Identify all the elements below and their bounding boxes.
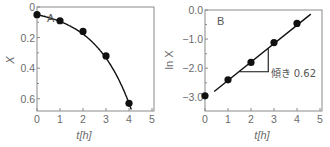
y-tick-label: −2.0 [182, 62, 203, 74]
x-tick-label: 2 [248, 113, 254, 125]
data-points-a [33, 11, 132, 107]
y-tick-label: 0.2 [20, 32, 35, 44]
panel-label-b: B [217, 15, 224, 27]
y-tick-label: 0.0 [188, 4, 203, 16]
x-axis-label-a: t[h] [76, 129, 92, 141]
x-tick-label: 5 [149, 113, 155, 125]
x-tick-label: 5 [317, 113, 323, 125]
y-axis-label-b: ln X [163, 50, 175, 70]
x-tick-label: 1 [225, 113, 231, 125]
y-tick-label: −3.0 [182, 91, 203, 103]
data-point [293, 20, 300, 27]
data-point [79, 28, 86, 35]
data-point [270, 39, 277, 46]
y-tick-label: 0 [29, 1, 35, 13]
data-point [33, 11, 40, 18]
panel-label-a: A [47, 12, 55, 24]
x-tick-label: 3 [103, 113, 109, 125]
y-tick-label: −1.0 [182, 33, 203, 45]
x-tick-label: 4 [294, 113, 300, 125]
data-points-b [201, 20, 300, 100]
data-point [125, 100, 132, 107]
data-point [102, 52, 109, 59]
plot-frame-a [37, 7, 154, 111]
chart-panel-a: 012345 00.20.40.6 A t[h] X [4, 1, 155, 141]
x-tick-label: 1 [57, 113, 63, 125]
data-point [247, 59, 254, 66]
x-tick-label: 0 [202, 113, 208, 125]
y-ticks-b: 0.0−1.0−2.0−3.0 [182, 4, 208, 103]
x-axis-label-b: t[h] [254, 129, 270, 141]
slope-annotation: 傾き 0.62 [271, 67, 316, 79]
chart-panel-b: 012345 0.0−1.0−2.0−3.0 B 傾き 0.62 t[h] ln… [163, 4, 323, 141]
x-tick-label: 2 [80, 113, 86, 125]
y-tick-label: 0.6 [20, 93, 35, 105]
figure: 012345 00.20.40.6 A t[h] X 012345 0.0−1.… [0, 0, 330, 147]
x-tick-label: 4 [126, 113, 132, 125]
x-tick-label: 0 [34, 113, 40, 125]
data-point [56, 17, 63, 24]
data-point [201, 92, 208, 99]
data-point [224, 76, 231, 83]
y-axis-label-a: X [4, 56, 16, 65]
x-tick-label: 3 [271, 113, 277, 125]
y-tick-label: 0.4 [20, 62, 35, 74]
